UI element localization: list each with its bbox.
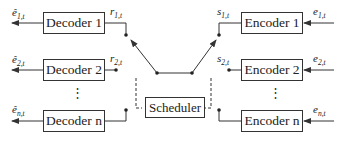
- scheduler-box: Scheduler: [145, 97, 205, 118]
- encoder-1-box: Encoder 1: [241, 12, 303, 34]
- label-e-hat-1: ê1,t: [12, 7, 25, 21]
- decoder-n-input-line: [105, 110, 126, 121]
- switch-pivot-right: [190, 71, 194, 75]
- contact-r2: [114, 68, 118, 72]
- label-e-hat-2: ê2,t: [12, 54, 25, 68]
- contact-s2: [227, 68, 231, 72]
- encoder-n-output-line: [219, 110, 241, 121]
- switch-left-arm: [131, 40, 157, 73]
- label-e-n: en,t: [313, 104, 326, 118]
- contact-r1: [124, 33, 128, 37]
- label-e-1: e1,t: [313, 6, 326, 20]
- label-r-2: r2,t: [110, 53, 122, 67]
- label-s-1: s1,t: [217, 6, 229, 20]
- encoder-2-box: Encoder 2: [241, 59, 303, 81]
- decoder-1-box: Decoder 1: [43, 12, 105, 34]
- encoder-n-box: Encoder n: [241, 110, 303, 132]
- encoder-ellipsis: ⋮: [269, 90, 275, 95]
- contact-sn: [217, 108, 221, 112]
- decoder-2-box: Decoder 2: [43, 59, 105, 81]
- contact-s1: [217, 33, 221, 37]
- switch-right-arm: [192, 40, 216, 73]
- label-r-1: r1,t: [110, 6, 122, 20]
- encoder-1-output-line: [219, 23, 241, 35]
- decoder-ellipsis: ⋮: [71, 90, 77, 95]
- label-e-2: e2,t: [313, 53, 326, 67]
- scheduler-control-right: [205, 78, 211, 108]
- scheduler-control-left: [136, 78, 142, 108]
- label-s-2: s2,t: [217, 53, 229, 67]
- scheduling-diagram: Decoder 1 Decoder 2 Decoder n Encoder 1 …: [0, 0, 342, 141]
- decoder-n-box: Decoder n: [43, 110, 105, 132]
- contact-rn: [124, 108, 128, 112]
- label-e-hat-n: ên,t: [12, 104, 25, 118]
- switch-pivot-left: [155, 71, 159, 75]
- decoder-1-input-line: [105, 23, 126, 35]
